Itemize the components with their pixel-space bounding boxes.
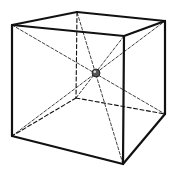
cube-drawing (0, 0, 174, 176)
visible-edges (12, 12, 165, 164)
sphere (92, 69, 100, 77)
cube-diagram (0, 0, 174, 176)
center-sphere (92, 69, 100, 77)
cube-edge (12, 136, 123, 164)
cube-edge (123, 114, 165, 164)
cube-edge (12, 25, 124, 36)
body-diagonal (76, 36, 124, 98)
hidden-edge (12, 98, 76, 136)
cube-edge (12, 12, 77, 25)
cube-edge (123, 36, 124, 164)
sphere-highlight (94, 71, 97, 74)
hidden-edges (12, 12, 165, 136)
hidden-edge (76, 12, 77, 98)
cube-edge (77, 12, 165, 21)
cube-edge (124, 21, 165, 36)
